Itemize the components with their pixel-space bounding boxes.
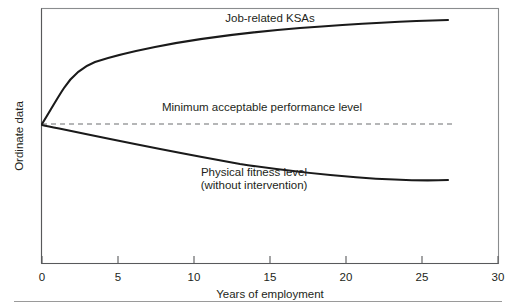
y-axis-title: Ordinate data — [13, 101, 25, 171]
annotation-job-related-ksas: Job-related KSAs — [225, 12, 315, 24]
x-axis-ticks — [42, 256, 498, 264]
x-tick-label-15: 15 — [264, 271, 277, 283]
line-chart: 0 5 10 15 20 25 30 Years of employment O… — [0, 0, 516, 308]
x-tick-label-0: 0 — [39, 271, 45, 283]
figure-container: 0 5 10 15 20 25 30 Years of employment O… — [0, 0, 516, 308]
x-tick-label-30: 30 — [492, 271, 505, 283]
annotation-minimum-acceptable-performance: Minimum acceptable performance level — [162, 101, 362, 113]
x-tick-label-20: 20 — [340, 271, 353, 283]
x-tick-label-25: 25 — [416, 271, 429, 283]
plot-frame — [42, 9, 499, 264]
annotation-physical-fitness-line2: (without intervention) — [201, 179, 308, 191]
annotation-physical-fitness-line1: Physical fitness level — [201, 166, 307, 178]
x-tick-label-10: 10 — [188, 271, 201, 283]
x-tick-label-5: 5 — [115, 271, 121, 283]
x-axis-title: Years of employment — [216, 288, 324, 300]
